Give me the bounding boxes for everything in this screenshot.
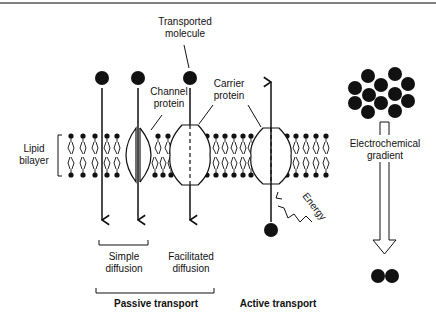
molecule-cluster [348,67,415,119]
gradient-arrow-top [380,122,389,135]
carrier-protein-facilitated [170,125,211,185]
label-line: molecule [147,28,223,40]
label-line: bilayer [14,155,54,167]
transported-molecule-leader [184,45,189,68]
label-line: protein [144,98,194,110]
low-concentration-molecule-2 [385,269,399,283]
label-line: protein [204,90,254,102]
label-line: Carrier [204,78,254,90]
transported-molecule-active [264,223,278,237]
facilitated-diffusion-label: Facilitated diffusion [160,251,222,275]
transported-molecule-2 [131,71,145,85]
label-line: Lipid [14,143,54,155]
channel-protein-leader [151,115,162,130]
simple-diffusion-label: Simple diffusion [96,251,152,275]
label-line: gradient [342,150,428,162]
lipid-bilayer-label: Lipid bilayer [14,143,54,167]
passive-transport-bracket [96,288,214,293]
label-line: Transported [147,16,223,28]
transported-molecule-3 [183,71,197,85]
low-concentration-molecule-1 [371,269,385,283]
passive-transport-label: Passive transport [108,298,204,310]
active-transport-label: Active transport [236,298,320,310]
electrochemical-gradient-label: Electrochemical gradient [342,138,428,162]
label-line: Electrochemical [342,138,428,150]
gradient-arrow [373,162,396,254]
label-line: diffusion [160,263,222,275]
channel-protein-label: Channel protein [144,86,194,110]
label-line: Facilitated [160,251,222,263]
label-line: Channel [144,86,194,98]
transported-molecule-1 [95,71,109,85]
label-line: Simple [96,251,152,263]
transported-molecule-label: Transported molecule [147,16,223,40]
lipid-bilayer-bracket [58,135,62,176]
carrier-protein-label: Carrier protein [204,78,254,102]
carrier-protein-leader-2 [248,105,261,127]
simple-diffusion-bracket [99,240,148,245]
carrier-protein-leader-1 [199,105,213,124]
label-line: diffusion [96,263,152,275]
